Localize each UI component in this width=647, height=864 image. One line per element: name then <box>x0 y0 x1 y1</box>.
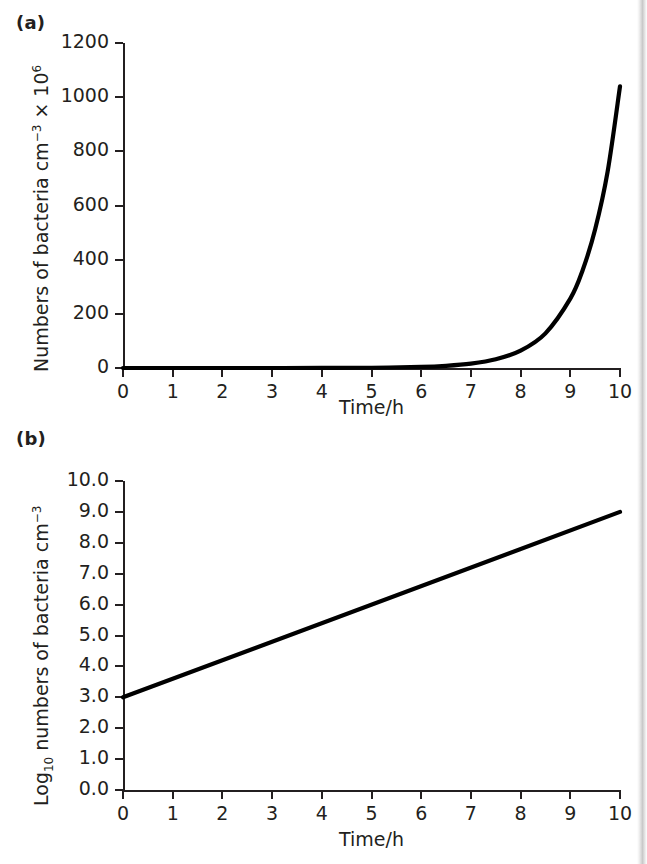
x-tick-label: 8 <box>496 802 546 824</box>
y-tick <box>115 42 123 44</box>
x-tick <box>122 369 124 377</box>
x-tick <box>569 791 571 799</box>
panel-b-x-axis-title: Time/h <box>123 828 620 850</box>
panel-a-y-axis-title-sup2: 6 <box>30 65 44 73</box>
x-tick <box>371 369 373 377</box>
x-tick <box>122 791 124 799</box>
x-tick <box>172 369 174 377</box>
panel-b-plot-area: 0.01.02.03.04.05.06.07.08.09.010.0012345… <box>123 481 620 790</box>
y-tick-label: 5.0 <box>29 623 109 645</box>
figure-bacterial-growth: (a) Numbers of bacteria cm−3 × 106 02004… <box>0 0 647 864</box>
x-tick <box>221 791 223 799</box>
series-path <box>123 86 620 368</box>
x-tick <box>520 369 522 377</box>
y-tick <box>115 758 123 760</box>
x-tick <box>321 791 323 799</box>
y-tick <box>115 96 123 98</box>
x-tick-label: 5 <box>347 802 397 824</box>
y-tick-label: 0.0 <box>29 777 109 799</box>
x-tick <box>470 369 472 377</box>
y-tick-label: 1.0 <box>29 746 109 768</box>
x-tick <box>619 791 621 799</box>
x-tick <box>619 369 621 377</box>
y-tick-label: 4.0 <box>29 653 109 675</box>
y-tick <box>115 150 123 152</box>
x-tick <box>520 791 522 799</box>
y-tick <box>115 259 123 261</box>
panel-a-x-axis-title: Time/h <box>123 396 620 418</box>
x-tick <box>271 369 273 377</box>
y-tick <box>115 635 123 637</box>
x-tick-label: 0 <box>98 802 148 824</box>
y-tick-label: 6.0 <box>29 592 109 614</box>
y-tick <box>115 727 123 729</box>
page-scan-edge <box>637 0 647 864</box>
data-curve <box>123 481 622 792</box>
x-tick-label: 2 <box>197 802 247 824</box>
x-tick <box>271 791 273 799</box>
y-tick <box>115 665 123 667</box>
y-tick-label: 8.0 <box>29 530 109 552</box>
x-tick-label: 1 <box>148 802 198 824</box>
x-tick-label: 9 <box>545 802 595 824</box>
x-tick <box>321 369 323 377</box>
y-tick-label: 9.0 <box>29 499 109 521</box>
y-tick-label: 1200 <box>29 30 109 52</box>
y-tick-label: 400 <box>29 247 109 269</box>
y-tick-label: 3.0 <box>29 684 109 706</box>
y-tick-label: 7.0 <box>29 561 109 583</box>
x-tick <box>470 791 472 799</box>
y-tick-label: 200 <box>29 301 109 323</box>
x-tick <box>420 791 422 799</box>
y-tick-label: 600 <box>29 193 109 215</box>
x-tick <box>172 791 174 799</box>
y-tick-label: 800 <box>29 138 109 160</box>
y-tick-label: 10.0 <box>29 468 109 490</box>
y-tick <box>115 573 123 575</box>
y-tick-label: 0 <box>29 355 109 377</box>
panel-b: (b) Log10 numbers of bacteria cm−3 0.01.… <box>0 424 647 864</box>
x-tick-label: 7 <box>446 802 496 824</box>
x-tick <box>569 369 571 377</box>
x-tick <box>221 369 223 377</box>
y-tick <box>115 313 123 315</box>
series-path <box>123 512 620 697</box>
y-tick <box>115 542 123 544</box>
x-tick-label: 6 <box>396 802 446 824</box>
panel-a: (a) Numbers of bacteria cm−3 × 106 02004… <box>0 0 647 432</box>
data-curve <box>123 43 622 370</box>
panel-b-label: (b) <box>16 428 46 449</box>
y-tick-label: 2.0 <box>29 715 109 737</box>
x-tick <box>420 369 422 377</box>
panel-a-y-axis-title: Numbers of bacteria cm−3 × 106 <box>30 65 52 372</box>
y-tick <box>115 511 123 513</box>
x-tick <box>371 791 373 799</box>
panel-a-plot-area: 020040060080010001200012345678910 <box>123 43 620 368</box>
x-tick-label: 4 <box>297 802 347 824</box>
y-tick <box>115 480 123 482</box>
y-tick-label: 1000 <box>29 84 109 106</box>
x-tick-label: 3 <box>247 802 297 824</box>
y-tick <box>115 604 123 606</box>
y-tick <box>115 205 123 207</box>
